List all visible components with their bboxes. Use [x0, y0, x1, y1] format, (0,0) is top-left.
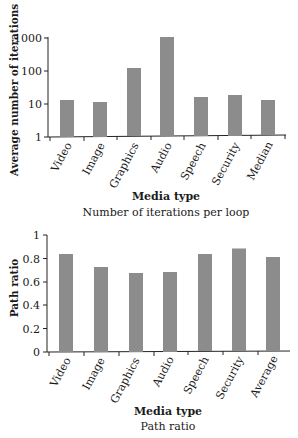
bar-graphics [127, 68, 141, 136]
x-axis-label: Media type [134, 405, 202, 418]
chart-caption: Path ratio [141, 420, 196, 433]
x-label-average: Average [247, 353, 280, 400]
bar-speech [198, 254, 212, 351]
x-label-image: Image [80, 355, 108, 392]
iterations-chart: Average number of iterations 1000 100 10… [0, 0, 298, 225]
y-tick-0.4: 0.4 [23, 299, 41, 312]
bar-video [59, 254, 73, 352]
x-tick-labels: Video Image Graphics Audio Speech Securi… [48, 139, 276, 190]
x-label-security: Security [213, 354, 247, 402]
chart-caption: Number of iterations per loop [83, 206, 250, 219]
bar-graphics [129, 273, 143, 352]
iterations-chart-svg: Average number of iterations 1000 100 10… [0, 0, 298, 225]
bar-audio [160, 37, 174, 136]
x-label-video: Video [48, 140, 75, 175]
y-tick-0.2: 0.2 [23, 323, 41, 336]
bar-video [60, 100, 74, 137]
bar-audio [163, 272, 177, 352]
y-tick-1: 1 [33, 229, 40, 242]
x-label-median: Median [244, 139, 275, 182]
x-label-security: Security [209, 140, 243, 188]
bar-average [266, 257, 280, 351]
x-label-audio: Audio [148, 140, 175, 176]
bar-image [94, 267, 108, 352]
bar-security [232, 249, 246, 352]
path-ratio-chart-svg: Path ratio 1 0.8 0.6 0.4 0.2 0 [0, 225, 298, 438]
x-label-speech: Speech [181, 354, 212, 396]
y-tick-0: 0 [33, 346, 40, 359]
y-tick-1000: 1000 [14, 32, 42, 45]
bar-speech [194, 97, 208, 136]
bar-median [261, 100, 275, 135]
x-label-audio: Audio [150, 354, 177, 390]
y-tick-0.6: 0.6 [23, 276, 41, 289]
x-label-speech: Speech [178, 140, 209, 182]
x-label-image: Image [80, 140, 108, 177]
x-axis-label: Media type [132, 190, 200, 203]
y-tick-10: 10 [28, 98, 42, 111]
x-label-graphics: Graphics [108, 355, 143, 406]
y-axis: 1 0.8 0.6 0.4 0.2 0 [23, 229, 48, 359]
y-tick-1: 1 [35, 131, 42, 144]
y-axis-label: Average number of iterations [8, 4, 20, 178]
bars [59, 249, 280, 353]
bar-image [93, 102, 107, 137]
x-tick-labels: Video Image Graphics Audio Speech Securi… [47, 353, 281, 405]
x-label-graphics: Graphics [107, 140, 142, 191]
path-ratio-chart: Path ratio 1 0.8 0.6 0.4 0.2 0 [0, 225, 298, 438]
y-tick-0.8: 0.8 [23, 253, 41, 266]
bar-security [228, 95, 242, 136]
bars [60, 37, 275, 137]
x-label-video: Video [47, 355, 74, 390]
y-tick-100: 100 [21, 65, 42, 78]
y-axis-label: Path ratio [8, 259, 20, 318]
